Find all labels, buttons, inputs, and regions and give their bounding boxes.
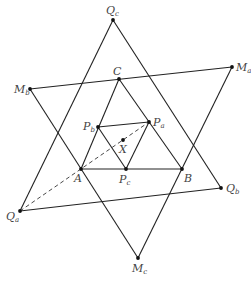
segment-Qa-Pa (20, 122, 149, 211)
point-Qa (18, 209, 22, 213)
label-C: C (113, 65, 122, 78)
point-B (180, 167, 184, 171)
label-Mc: Mc (131, 262, 147, 276)
label-Qb: Qb (226, 182, 240, 196)
segment-Qc-Qa (20, 20, 113, 211)
label-Ma: Ma (235, 61, 251, 75)
point-A (79, 167, 83, 171)
point-Pa (147, 120, 151, 124)
segment-Pc-Pa (126, 122, 149, 169)
points-layer (18, 18, 234, 260)
point-Mc (136, 256, 140, 260)
point-Ma (230, 65, 234, 69)
point-X (121, 138, 125, 142)
label-Pc: Pc (118, 173, 130, 187)
point-Pb (96, 125, 100, 129)
label-B: B (183, 172, 192, 185)
label-X: X (118, 143, 128, 156)
label-Pa: Pa (152, 116, 165, 130)
segments-layer (20, 20, 232, 258)
point-Qc (111, 18, 115, 22)
label-A: A (73, 172, 82, 185)
segment-Mc-Ma (138, 67, 232, 258)
label-Qa: Qa (6, 210, 19, 224)
label-Mb: Mb (13, 83, 30, 97)
geometry-diagram: QcMaMbCPbPaXAPcBQaQbMc (0, 0, 251, 291)
label-Pb: Pb (82, 120, 95, 134)
point-Pc (124, 167, 128, 171)
label-Qc: Qc (106, 4, 119, 18)
point-Qb (219, 186, 223, 190)
segment-Ma-Mb (30, 67, 232, 89)
segment-Pa-Pb (98, 122, 149, 127)
segment-Qa-Qb (20, 188, 221, 211)
